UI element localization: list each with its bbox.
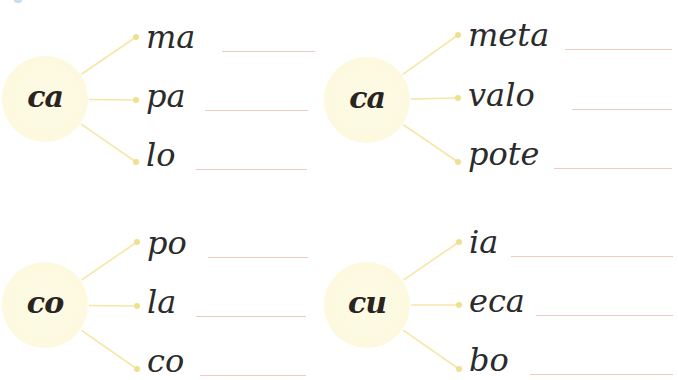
connector-line: [411, 98, 458, 99]
word-fragment: lo: [146, 139, 176, 171]
word-fragment: po: [147, 227, 187, 259]
connector-dot: [455, 32, 461, 38]
word-fragment: pa: [146, 80, 186, 112]
connector-line: [81, 330, 137, 369]
word-fragment: ia: [469, 226, 498, 258]
connector-dot: [455, 95, 461, 101]
word-row: pa: [146, 80, 186, 112]
syllable-text: co: [27, 285, 63, 320]
connector-dot: [133, 97, 139, 103]
connector-line: [403, 35, 458, 74]
connector-dot: [456, 366, 462, 372]
connector-line: [89, 99, 136, 100]
word-row: bo: [469, 344, 509, 376]
syllable-circle: co: [2, 262, 88, 348]
word-fragment: meta: [468, 19, 549, 51]
word-fragment: bo: [469, 344, 509, 376]
syllable-text: cu: [348, 285, 386, 320]
connector-dot: [133, 34, 139, 40]
word-row: valo: [468, 79, 535, 111]
connector-dot: [134, 366, 140, 372]
syllable-circle: ca: [2, 56, 88, 142]
connector-line: [403, 125, 458, 162]
word-row: co: [147, 345, 184, 377]
word-fragment: pote: [468, 138, 540, 170]
connector-dot: [134, 303, 140, 309]
connector-dot: [455, 159, 461, 165]
word-row: la: [147, 286, 176, 318]
word-fragment: ma: [146, 21, 195, 53]
syllable-circle: cu: [324, 262, 410, 348]
word-fragment: valo: [468, 79, 535, 111]
word-row: ma: [146, 21, 195, 53]
word-row: meta: [468, 19, 549, 51]
word-fragment: la: [147, 286, 176, 318]
word-row: eca: [469, 285, 525, 317]
word-row: pote: [468, 138, 540, 170]
connector-line: [403, 242, 459, 280]
word-row: po: [147, 227, 187, 259]
connector-dot: [134, 239, 140, 245]
connector-line: [403, 330, 459, 369]
connector-line: [81, 37, 136, 74]
word-fragment: eca: [469, 285, 525, 317]
connector-dot: [456, 239, 462, 245]
word-row: lo: [146, 139, 176, 171]
word-row: ia: [469, 226, 498, 258]
syllable-circle: ca: [324, 57, 410, 143]
syllable-text: ca: [27, 79, 63, 114]
connector-line: [81, 242, 137, 280]
connector-line: [81, 124, 136, 162]
connector-dot: [456, 302, 462, 308]
word-fragment: co: [147, 345, 184, 377]
connector-dot: [133, 159, 139, 165]
connector-line: [89, 305, 137, 306]
syllable-text: ca: [349, 80, 385, 115]
